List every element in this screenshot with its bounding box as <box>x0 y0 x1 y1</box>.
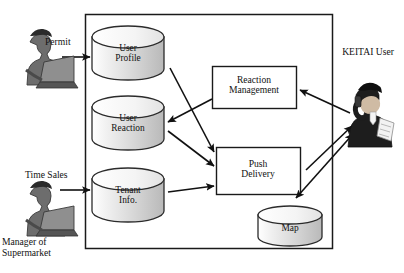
flow-time-sales-label: Time Sales <box>25 169 68 180</box>
process-push-delivery <box>217 148 301 195</box>
flow-keitai-to-reaction <box>300 90 350 113</box>
flow-tenant-to-push <box>168 186 214 192</box>
flow-push-to-keitai <box>306 126 352 170</box>
flow-reaction-to-user-reaction <box>168 99 212 122</box>
datastore-tenant-info <box>92 168 164 222</box>
datastore-user-profile <box>92 26 164 80</box>
flow-permit-label: Permit <box>45 36 71 47</box>
datastore-map <box>258 206 322 246</box>
actor-supermarket-manager-label: Manager of Supermarket <box>2 237 86 258</box>
process-reaction-management <box>213 67 297 109</box>
flow-profile-to-push <box>170 68 214 152</box>
flow-reaction-to-push <box>168 131 214 166</box>
datastore-user-reaction <box>92 96 164 150</box>
actor-keitai-user-figure <box>348 83 394 147</box>
actor-supermarket-manager-figure <box>26 181 78 236</box>
diagram-canvas: User Profile User Reaction Tenant Info. … <box>0 0 404 273</box>
flow-keitai-map <box>296 134 353 198</box>
actor-keitai-user-label: KEITAI User <box>334 47 402 58</box>
